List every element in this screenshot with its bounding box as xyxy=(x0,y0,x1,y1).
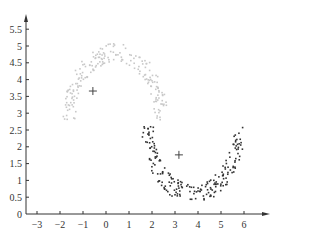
data-point xyxy=(176,188,178,190)
data-point xyxy=(144,79,146,81)
data-point xyxy=(155,89,157,91)
x-tick-label: 2 xyxy=(150,219,155,230)
data-point xyxy=(227,173,229,175)
data-point xyxy=(84,63,86,65)
data-point xyxy=(142,63,144,65)
data-point xyxy=(158,91,160,93)
data-point xyxy=(189,186,191,188)
data-point xyxy=(65,104,67,106)
data-point xyxy=(113,59,115,61)
data-point xyxy=(157,94,159,96)
data-point xyxy=(152,137,154,139)
data-point xyxy=(84,77,86,79)
data-point xyxy=(237,153,239,155)
data-point xyxy=(99,61,101,63)
data-point xyxy=(97,53,99,55)
data-point xyxy=(148,131,150,133)
data-point xyxy=(174,194,176,196)
data-point xyxy=(149,142,151,144)
data-point xyxy=(115,54,117,56)
data-point xyxy=(238,132,240,134)
data-point xyxy=(181,186,183,188)
data-point xyxy=(225,160,227,162)
data-point xyxy=(76,73,78,75)
centroid-markers xyxy=(89,87,183,159)
data-point xyxy=(234,160,236,162)
data-point xyxy=(139,70,141,72)
data-point xyxy=(80,80,82,82)
data-point xyxy=(179,195,181,197)
data-point xyxy=(155,97,157,99)
data-point xyxy=(166,104,168,106)
data-point xyxy=(92,52,94,54)
data-point xyxy=(77,85,79,87)
data-point xyxy=(152,150,154,152)
data-point xyxy=(234,167,236,169)
data-point xyxy=(155,98,157,100)
data-point xyxy=(193,193,195,195)
data-point xyxy=(129,64,131,66)
data-point xyxy=(94,58,96,60)
x-tick-label: −1 xyxy=(78,219,89,230)
data-point xyxy=(86,76,88,78)
data-point xyxy=(173,181,175,183)
data-point xyxy=(71,104,73,106)
data-point xyxy=(227,166,229,168)
data-point xyxy=(121,56,123,58)
data-point xyxy=(239,156,241,158)
data-point xyxy=(71,98,73,100)
data-point xyxy=(146,63,148,65)
data-point xyxy=(170,177,172,179)
data-point xyxy=(151,146,153,148)
data-point xyxy=(64,118,66,120)
x-tick-label: 4 xyxy=(196,219,201,230)
data-point xyxy=(113,43,115,45)
data-point xyxy=(101,54,103,56)
data-point xyxy=(66,119,68,121)
data-point xyxy=(101,64,103,66)
data-point xyxy=(161,185,163,187)
data-point xyxy=(159,119,161,121)
data-point xyxy=(222,175,224,177)
data-point xyxy=(152,172,154,174)
data-point xyxy=(144,74,146,76)
data-point xyxy=(92,70,94,72)
data-point xyxy=(108,61,110,63)
data-point xyxy=(80,73,82,75)
data-point xyxy=(99,56,101,58)
data-point xyxy=(100,65,102,67)
data-point xyxy=(180,181,182,183)
data-point xyxy=(147,83,149,85)
data-point xyxy=(75,70,77,72)
data-point xyxy=(154,164,156,166)
data-point xyxy=(101,58,103,60)
data-point xyxy=(74,96,76,98)
data-point xyxy=(152,141,154,143)
data-point xyxy=(67,109,69,111)
data-point xyxy=(139,73,141,75)
data-point xyxy=(200,188,202,190)
data-point xyxy=(133,58,135,60)
data-point xyxy=(157,99,159,101)
data-point xyxy=(103,57,105,59)
data-point xyxy=(145,141,147,143)
x-tick-label: 1 xyxy=(127,219,132,230)
data-point xyxy=(201,185,203,187)
data-point xyxy=(71,93,73,95)
data-point xyxy=(149,159,151,161)
data-point xyxy=(103,52,105,54)
data-point xyxy=(154,112,156,114)
data-point xyxy=(177,182,179,184)
data-point xyxy=(226,181,228,183)
data-point xyxy=(135,55,137,57)
data-point xyxy=(73,91,75,93)
data-point xyxy=(203,198,205,200)
data-point xyxy=(209,181,211,183)
data-point xyxy=(121,60,123,62)
data-point xyxy=(195,198,197,200)
data-point xyxy=(156,82,158,84)
data-point xyxy=(205,186,207,188)
data-point xyxy=(238,159,240,161)
data-point xyxy=(169,194,171,196)
data-point xyxy=(81,75,83,77)
